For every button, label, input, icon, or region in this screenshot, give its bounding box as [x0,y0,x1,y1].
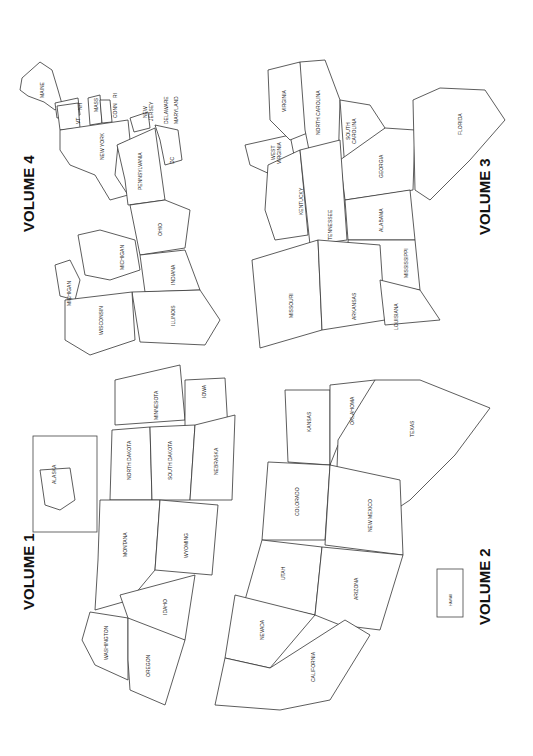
label-kansas: KANSAS [306,411,312,432]
label-new-jersey-2: JERSEY [148,101,154,121]
label-nevada: NEVADA [259,619,265,640]
label-indiana: INDIANA [170,264,176,285]
state-missouri [252,240,322,348]
state-michigan-lower [78,230,140,280]
state-new-york [60,120,130,200]
label-arkansas: ARKANSAS [351,292,357,320]
label-north-dakota: NORTH DAKOTA [126,440,132,480]
label-dc: DC [169,156,175,164]
label-new-york: NEW YORK [99,132,105,160]
volume-2-region [215,380,490,710]
label-mississippi: MISSISSIPPI [403,248,409,278]
label-oklahoma: OKLAHOMA [349,396,355,425]
state-minnesota [115,365,185,425]
label-louisiana: LOUISIANA [393,303,399,330]
label-vt: VT [75,118,81,124]
state-new-mexico [325,465,403,555]
label-north-carolina: NORTH CAROLINA [315,90,321,135]
label-oregon: OREGON [145,654,151,677]
state-arizona [315,547,403,630]
volume-1-title: VOLUME 1 [20,533,37,610]
label-tennessee: TENNESSEE [327,209,333,240]
label-mass: MASS [93,97,99,112]
label-illinois: ILLINOIS [170,305,176,326]
label-west-virginia-2: VIRGINIA [276,141,282,164]
label-virginia: VIRGINIA [281,89,287,112]
label-south-carolina-2: CAROLINA [351,118,357,144]
label-idaho: IDAHO [162,599,168,615]
label-maine: MAINE [39,82,45,99]
label-new-mexico: NEW MEXICO [367,499,373,532]
label-delaware: DELAWARE [163,96,169,124]
label-iowa: IOWA [201,384,207,398]
label-ri: RI [112,93,118,98]
label-conn: CONN [112,103,118,118]
volume-4-region [20,62,220,355]
label-pennsylvania: PENNSYLVANIA [137,152,143,190]
label-maryland: MARYLAND [173,96,179,124]
volume-2-title: VOLUME 2 [476,548,493,625]
label-wyoming: WYOMING [183,533,189,558]
label-arizona: ARIZONA [353,577,359,600]
label-ohio: OHIO [157,223,163,236]
label-alaska: ALASKA [51,464,57,484]
label-south-dakota: SOUTH DAKOTA [167,440,173,480]
label-michigan-lower: MICHIGAN [119,245,125,270]
label-georgia: GEORGIA [378,154,384,178]
volume-1-region [33,365,235,705]
label-florida: FLORIDA [457,113,463,135]
label-california: CALIFORNIA [310,651,316,682]
label-nebraska: NEBRASKA [213,447,219,475]
volume-3-title: VOLUME 3 [476,158,493,235]
us-map-volumes: VOLUME 4 VOLUME 3 VOLUME 1 VOLUME 2 MAIN… [0,0,533,756]
state-alaska [40,468,75,510]
label-michigan-upper: MICHIGAN [66,281,72,306]
volume-4-title: VOLUME 4 [20,155,37,232]
state-conn [100,100,112,123]
label-colorado: COLORADO [294,487,300,516]
hawaii-inset [437,569,463,617]
label-wisconsin: WISCONSIN [98,306,104,335]
label-hawaii: HAWAII [449,594,453,606]
state-illinois [132,290,220,345]
label-montana: MONTANA [122,532,128,557]
label-utah: UTAH [280,566,286,580]
label-nh: NH [77,102,83,110]
label-kentucky: KENTUCKY [298,187,304,215]
label-missouri: MISSOURI [288,293,294,318]
label-texas: TEXAS [409,420,415,437]
label-washington: WASHINGTON [103,625,109,660]
label-minnesota: MINNESOTA [153,390,159,420]
label-alabama: ALABAMA [378,208,384,232]
